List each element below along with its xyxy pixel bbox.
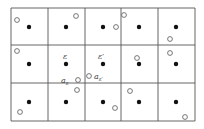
open-point-14 [183,115,188,120]
open-point-4 [168,37,173,42]
open-point-10 [75,88,80,93]
filled-point-r1c1 [64,62,68,66]
label-epsilon: ε [63,52,67,61]
filled-point-r2c2 [101,100,105,104]
filled-point-r0c3 [137,25,141,29]
open-point-8 [76,78,81,83]
open-points [15,13,188,120]
open-point-7 [168,51,173,56]
label-a-epsilon-prime: aε′ [94,72,104,82]
filled-point-r0c2 [101,25,105,29]
filled-point-r1c0 [27,62,31,66]
label-a-epsilon: aε [61,76,69,86]
filled-point-r0c4 [174,25,178,29]
open-point-11 [128,89,133,94]
open-point-1 [74,14,79,19]
open-point-13 [113,106,118,111]
open-point-0 [15,18,20,23]
open-point-5 [15,49,20,54]
open-point-6 [135,56,140,61]
filled-point-r2c3 [137,100,141,104]
filled-point-r1c2 [101,62,105,66]
open-point-2 [122,13,127,18]
open-point-9 [87,74,92,79]
open-point-3 [114,25,119,30]
label-epsilon-prime: ε′ [98,52,104,61]
grid-diagram: ε ε′ aε aε′ [0,0,204,129]
filled-point-r0c0 [27,25,31,29]
open-point-12 [18,110,23,115]
filled-point-r2c4 [174,100,178,104]
filled-points [27,25,178,104]
filled-point-r1c3 [137,62,141,66]
filled-point-r2c0 [27,100,31,104]
filled-point-r0c1 [64,25,68,29]
filled-point-r2c1 [64,100,68,104]
filled-point-r1c4 [174,62,178,66]
